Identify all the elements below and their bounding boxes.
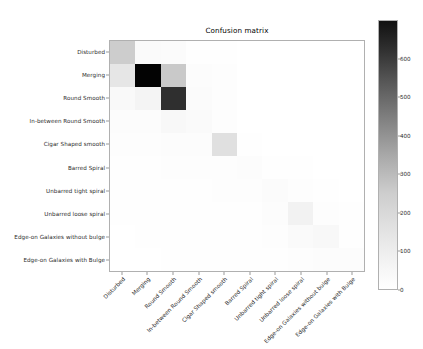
heatmap-cell	[110, 179, 135, 202]
heatmap-cell	[288, 64, 313, 87]
heatmap-axes	[109, 40, 365, 272]
y-axis-tick-labels: DisturbedMergingRound SmoothIn-between R…	[0, 40, 105, 272]
heatmap-cell	[212, 64, 237, 87]
colorbar-tick-label: 600	[400, 56, 411, 62]
x-tick-mark	[198, 272, 199, 275]
heatmap-cell	[161, 110, 186, 133]
heatmap-cell	[110, 156, 135, 179]
y-tick-label: Edge-on Galaxies without bulge	[14, 234, 105, 240]
heatmap-cell	[186, 156, 211, 179]
heatmap-cell	[313, 64, 338, 87]
heatmap-cell	[212, 248, 237, 271]
colorbar-tick-label: 500	[400, 94, 411, 100]
heatmap-cell	[288, 133, 313, 156]
heatmap-cell	[339, 179, 364, 202]
heatmap-cell	[288, 87, 313, 110]
heatmap-cell	[237, 248, 262, 271]
heatmap-cell	[212, 110, 237, 133]
heatmap-cell	[339, 110, 364, 133]
heatmap-cell	[262, 156, 287, 179]
heatmap-cell	[288, 225, 313, 248]
heatmap-cell	[237, 179, 262, 202]
heatmap-cell	[262, 41, 287, 64]
heatmap-cell	[161, 133, 186, 156]
y-tick-label: Round Smooth	[63, 95, 105, 101]
heatmap-cell	[212, 202, 237, 225]
heatmap-cell	[262, 248, 287, 271]
heatmap-cell	[135, 110, 160, 133]
y-tick-mark	[106, 190, 109, 191]
heatmap-cell	[212, 41, 237, 64]
heatmap-cell	[237, 64, 262, 87]
heatmap-cell	[161, 179, 186, 202]
x-tick-label: Unbarred tight spiral	[234, 276, 280, 322]
heatmap-cell	[313, 202, 338, 225]
heatmap-cell	[135, 133, 160, 156]
confusion-matrix-figure: Confusion matrix DisturbedMergingRound S…	[0, 0, 423, 349]
heatmap-cell	[237, 156, 262, 179]
colorbar-tick-mark	[398, 251, 401, 252]
heatmap-cell	[288, 110, 313, 133]
heatmap-cell	[313, 41, 338, 64]
heatmap-cell	[262, 110, 287, 133]
heatmap-cell	[288, 41, 313, 64]
colorbar-tick-label: 100	[400, 248, 411, 254]
heatmap-cell	[339, 225, 364, 248]
heatmap-cell	[186, 133, 211, 156]
colorbar-tick-mark	[398, 290, 401, 291]
heatmap-cell	[288, 248, 313, 271]
colorbar-tick-mark	[398, 97, 401, 98]
heatmap-cell	[339, 41, 364, 64]
heatmap-cell	[186, 248, 211, 271]
heatmap-cell	[161, 87, 186, 110]
page-title: Confusion matrix	[109, 26, 365, 35]
colorbar-tick-mark	[398, 58, 401, 59]
heatmap-cell	[313, 248, 338, 271]
heatmap-cell	[237, 133, 262, 156]
heatmap-cell	[262, 179, 287, 202]
heatmap-cell	[110, 87, 135, 110]
heatmap-cell	[186, 179, 211, 202]
heatmap-cell	[110, 202, 135, 225]
heatmap-cell	[262, 202, 287, 225]
x-tick-mark	[326, 272, 327, 275]
heatmap-cell	[186, 202, 211, 225]
heatmap-cell	[110, 41, 135, 64]
heatmap-cell	[262, 133, 287, 156]
heatmap-cell	[262, 87, 287, 110]
x-tick-mark	[173, 272, 174, 275]
heatmap-cell	[237, 87, 262, 110]
x-tick-label: Unbarred loose spiral	[258, 276, 305, 323]
heatmap-cell	[237, 225, 262, 248]
heatmap-cell	[313, 87, 338, 110]
x-tick-label: Merging	[131, 276, 152, 297]
heatmap-cell	[262, 225, 287, 248]
heatmap-cell	[339, 248, 364, 271]
heatmap-cell	[339, 87, 364, 110]
x-tick-mark	[301, 272, 302, 275]
heatmap-cell	[288, 179, 313, 202]
heatmap-cell	[212, 133, 237, 156]
heatmap-cell	[339, 156, 364, 179]
x-tick-mark	[275, 272, 276, 275]
heatmap-cell	[110, 225, 135, 248]
x-tick-mark	[147, 272, 148, 275]
y-tick-mark	[106, 214, 109, 215]
y-tick-mark	[106, 121, 109, 122]
heatmap-cell	[339, 133, 364, 156]
heatmap-cell	[212, 179, 237, 202]
x-tick-mark	[352, 272, 353, 275]
y-tick-label: Merging	[82, 72, 105, 78]
heatmap-cell	[161, 225, 186, 248]
x-tick-mark	[249, 272, 250, 275]
heatmap-cell	[313, 133, 338, 156]
heatmap-cell	[313, 225, 338, 248]
colorbar-tick-mark	[398, 212, 401, 213]
heatmap-cell	[186, 225, 211, 248]
heatmap-cell	[135, 156, 160, 179]
heatmap-cell	[161, 41, 186, 64]
y-tick-mark	[106, 167, 109, 168]
heatmap-cell	[135, 225, 160, 248]
colorbar	[378, 20, 398, 290]
y-tick-label: Edge-on Galaxies with Bulge	[23, 257, 105, 263]
